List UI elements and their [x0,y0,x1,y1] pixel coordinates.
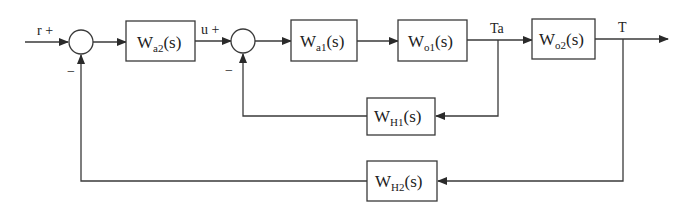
signal-t-label: T [618,20,627,35]
block-wa1: Wa1(s) [291,20,357,61]
signal-ta-label: Ta [490,21,505,36]
block-wo1: Wo1(s) [398,20,467,61]
summing-junction-1 [69,30,93,54]
block-diagram: r + − u + − Ta T Wa2(s) Wa1(s) Wo1(s) Wo… [0,0,693,216]
inner-feedback-out-line [243,54,367,116]
block-wa2: Wa2(s) [126,21,195,61]
outer-minus-sign: − [67,64,75,79]
inner-minus-sign: − [225,63,233,78]
block-wo2: Wo2(s) [532,19,595,59]
outer-feedback-out-line [81,55,367,181]
block-wh2: WH2(s) [367,161,437,201]
block-wh1: WH1(s) [367,98,435,135]
summing-junction-2 [231,29,255,53]
signal-r-label: r + [37,23,53,38]
signal-u-label: u + [201,22,220,37]
